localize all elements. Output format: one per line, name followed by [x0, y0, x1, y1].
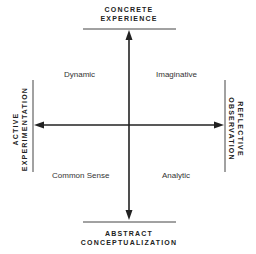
pole-label-line1: REFLECTIVE — [236, 79, 245, 179]
pole-abstract-conceptualization: ABSTRACT CONCEPTUALIZATION — [78, 229, 180, 247]
pole-label-line2: EXPERIENCE — [78, 14, 180, 23]
pole-label-line2: EXPERIMENTATION — [20, 79, 29, 179]
quadrant-common-sense: Common Sense — [52, 171, 109, 180]
pole-active-experimentation: ACTIVE EXPERIMENTATION — [11, 79, 29, 179]
arrow-up-icon — [126, 30, 133, 40]
quadrant-dynamic: Dynamic — [64, 70, 95, 79]
quadrant-analytic: Analytic — [162, 171, 190, 180]
pole-concrete-experience: CONCRETE EXPERIENCE — [78, 5, 180, 23]
pole-label-line1: ACTIVE — [11, 79, 20, 179]
pole-reflective-observation: REFLECTIVE OBSERVATION — [227, 79, 245, 179]
quadrant-imaginative: Imaginative — [156, 70, 197, 79]
arrow-right-icon — [214, 122, 224, 129]
pole-label-line2: OBSERVATION — [227, 79, 236, 179]
pole-label-line2: CONCEPTUALIZATION — [78, 238, 180, 247]
axes — [0, 0, 256, 254]
pole-label-line1: ABSTRACT — [78, 229, 180, 238]
arrow-down-icon — [126, 210, 133, 220]
pole-label-line1: CONCRETE — [78, 5, 180, 14]
arrow-left-icon — [34, 122, 44, 129]
